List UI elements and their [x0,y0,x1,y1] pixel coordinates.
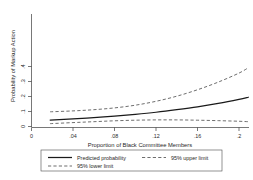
x-tick-label-2: .08 [111,133,119,139]
x-axis-title: Proportion of Black Committee Members [88,142,192,148]
series-predicted-probability [50,97,248,120]
x-tick-label-3: .12 [152,133,160,139]
chart-figure: 0 .1 .2 .3 .4 Probability of Markup Acti… [0,0,253,180]
x-tick-label-1: .04 [69,133,77,139]
x-tick-label-0: 0 [30,133,33,139]
data-series-group [50,68,248,124]
series-95-upper-limit [50,68,248,112]
y-tick-label-4: .4 [20,64,26,69]
y-tick-label-1: .1 [20,109,26,114]
y-tick-label-2: .2 [20,94,26,99]
y-axis-title: Probability of Markup Action [10,30,16,102]
legend-border [41,150,222,171]
x-axis-ticks [32,128,240,132]
y-axis-ticks [28,67,32,127]
legend-label-predicted-probability: Predicted probability [77,155,126,161]
y-axis-tick-labels: 0 .1 .2 .3 .4 [20,64,26,128]
legend-label-95-lower-limit: 95% lower limit [77,163,114,169]
line-chart: 0 .1 .2 .3 .4 Probability of Markup Acti… [0,0,253,180]
x-tick-label-4: .16 [194,133,202,139]
series-95-lower-limit [50,120,248,124]
axes-group [32,14,250,128]
y-tick-label-0: 0 [20,125,26,128]
legend-label-95-upper-limit: 95% upper limit [171,155,209,161]
y-tick-label-3: .3 [20,79,26,84]
x-axis-tick-labels: 0 .04 .08 .12 .16 .2 [30,133,241,139]
x-tick-label-5: .2 [237,133,242,139]
chart-legend: Predicted probability 95% upper limit 95… [41,150,222,171]
